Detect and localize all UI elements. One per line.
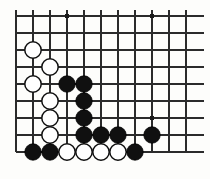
black-stone[interactable] [93,127,109,143]
black-stone[interactable] [127,144,143,160]
black-stone[interactable] [110,127,126,143]
go-board[interactable] [0,0,210,179]
black-stone[interactable] [76,127,92,143]
white-stone[interactable] [93,144,109,160]
black-stone[interactable] [76,76,92,92]
white-stone[interactable] [110,144,126,160]
black-stone[interactable] [25,144,41,160]
black-stone[interactable] [76,93,92,109]
white-stone[interactable] [42,93,58,109]
black-stone[interactable] [144,127,160,143]
star-point [150,116,154,120]
white-stone[interactable] [25,76,41,92]
star-point [65,14,69,18]
black-stone[interactable] [59,76,75,92]
black-stone[interactable] [76,110,92,126]
white-stone[interactable] [42,127,58,143]
white-stone[interactable] [76,144,92,160]
white-stone[interactable] [59,144,75,160]
white-stone[interactable] [25,42,41,58]
white-stone[interactable] [42,59,58,75]
white-stone[interactable] [42,110,58,126]
black-stone[interactable] [42,144,58,160]
go-board-diagram [0,0,210,179]
star-point [150,14,154,18]
